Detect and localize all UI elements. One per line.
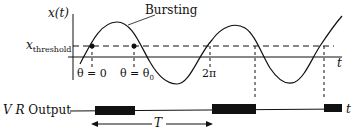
burst-2 xyxy=(212,104,256,114)
burst-3 xyxy=(324,104,342,112)
arrow-head-right xyxy=(206,121,213,127)
theta0-subscript: 0 xyxy=(149,74,153,82)
arrow-head-left xyxy=(91,121,98,127)
theta-theta0-label: θ = θ0 xyxy=(120,67,154,82)
two-pi-label: 2π xyxy=(202,67,216,80)
theta-theta0-text: θ = θ xyxy=(120,67,149,80)
threshold-symbol: x xyxy=(26,38,33,52)
threshold-label: xthreshold xyxy=(26,38,71,54)
burst-1 xyxy=(95,106,135,115)
output-t-label: t xyxy=(346,102,351,116)
bursting-label: Bursting xyxy=(145,3,198,17)
oscillation-diagram xyxy=(0,0,361,139)
period-label: T xyxy=(154,116,162,130)
theta-zero-label: θ = 0 xyxy=(77,67,107,80)
output-word: Output xyxy=(28,103,71,117)
vr-output-label: V R Output xyxy=(3,103,71,117)
y-axis-label: x(t) xyxy=(48,6,69,20)
threshold-subscript: threshold xyxy=(33,45,72,54)
t-axis-label: t xyxy=(337,56,342,70)
vr-symbol: V R xyxy=(3,103,25,117)
